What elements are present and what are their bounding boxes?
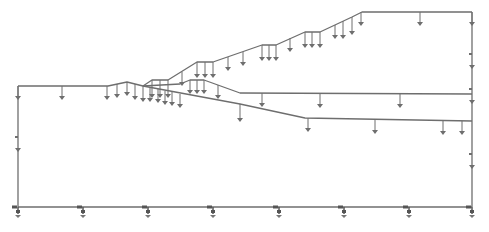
surface-load-arrow xyxy=(194,62,200,78)
arrow-down-icon xyxy=(147,98,153,102)
arrow-down-icon xyxy=(104,96,110,100)
surface-load-arrow xyxy=(417,12,423,26)
arrow-down-icon xyxy=(132,96,138,100)
arrow-down-icon xyxy=(397,104,403,108)
slope-model-diagram xyxy=(0,0,489,232)
surface-load-arrow xyxy=(340,21,346,39)
interface-load-arrow xyxy=(317,94,323,108)
arrow-down-icon xyxy=(225,67,231,71)
arrow-down-icon xyxy=(317,104,323,108)
boundary-markers xyxy=(15,53,475,169)
arrow-down-icon xyxy=(201,90,207,94)
arrow-down-icon xyxy=(340,35,346,39)
arrow-down-icon xyxy=(194,74,200,78)
interface-load-arrow xyxy=(201,80,207,94)
arrow-down-icon xyxy=(302,44,308,48)
arrow-down-icon xyxy=(114,94,120,98)
interface-load-arrow xyxy=(194,80,200,94)
surface-load-arrow xyxy=(317,32,323,48)
surface-load-arrow xyxy=(124,82,130,96)
arrow-down-icon xyxy=(317,44,323,48)
interface-load-arrow xyxy=(237,104,243,122)
ground-surface xyxy=(18,12,472,86)
layer-boundary-1 xyxy=(143,80,472,94)
arrow-down-icon xyxy=(215,95,221,99)
surface-load-arrow xyxy=(332,25,338,39)
surface-load-arrow xyxy=(225,57,231,71)
arrow-down-icon xyxy=(177,104,183,108)
layer-boundary-2 xyxy=(143,86,472,121)
arrow-down-icon xyxy=(459,131,465,135)
arrow-down-icon xyxy=(124,92,130,96)
arrow-down-icon xyxy=(15,96,21,100)
arrow-down-icon xyxy=(309,44,315,48)
arrow-down-icon xyxy=(259,103,265,107)
interface-load-arrow xyxy=(187,80,193,94)
arrow-down-icon xyxy=(140,98,146,102)
fixed-support-icon xyxy=(466,206,475,219)
arrow-down-icon xyxy=(440,131,446,135)
arrow-down-icon xyxy=(305,128,311,132)
surface-load-arrow xyxy=(15,86,21,100)
surface-load-arrow xyxy=(349,17,355,35)
interface-load-arrow xyxy=(177,94,183,108)
surface-load-arrow xyxy=(104,86,110,100)
surface-load-arrow xyxy=(140,86,146,102)
surface-load-arrow xyxy=(259,45,265,61)
arrow-down-icon xyxy=(240,62,246,66)
arrow-down-icon xyxy=(273,57,279,61)
interface-load-arrow xyxy=(215,85,221,99)
surface-load-arrow xyxy=(469,12,475,26)
arrow-down-icon xyxy=(59,96,65,100)
arrow-down-icon xyxy=(266,57,272,61)
boundary-lines xyxy=(18,12,472,207)
interface-load-arrow xyxy=(259,93,265,107)
surface-load-arrow xyxy=(114,84,120,98)
surface-load-arrow xyxy=(132,84,138,100)
interface-load-arrow xyxy=(459,121,465,135)
arrow-down-icon xyxy=(349,31,355,35)
interface-load-arrow xyxy=(162,91,168,105)
arrow-down-icon xyxy=(162,101,168,105)
surface-load-arrow xyxy=(210,62,216,78)
surface-load-arrow xyxy=(266,45,272,61)
surface-load-arrow xyxy=(240,52,246,66)
arrow-down-icon xyxy=(202,74,208,78)
interface-load-arrow xyxy=(305,118,311,132)
arrow-down-icon xyxy=(287,48,293,52)
arrow-down-icon xyxy=(194,90,200,94)
arrow-down-icon xyxy=(358,22,364,26)
surface-load-arrow xyxy=(309,32,315,48)
surface-load-arrow xyxy=(302,32,308,48)
load-arrows xyxy=(15,12,475,135)
surface-load-arrow xyxy=(202,62,208,78)
arrow-down-icon xyxy=(155,99,161,103)
surface-load-arrow xyxy=(165,80,171,98)
arrow-down-icon xyxy=(237,118,243,122)
interface-load-arrow xyxy=(372,120,378,134)
arrow-down-icon xyxy=(187,90,193,94)
surface-load-arrow xyxy=(273,45,279,61)
arrow-down-icon xyxy=(169,102,175,106)
arrow-down-icon xyxy=(259,57,265,61)
arrow-down-icon xyxy=(165,94,171,98)
surface-load-arrow xyxy=(59,86,65,100)
arrow-down-icon xyxy=(332,35,338,39)
interface-load-arrow xyxy=(397,94,403,108)
arrow-down-icon xyxy=(372,130,378,134)
diagram-svg xyxy=(0,0,489,232)
arrow-down-icon xyxy=(417,22,423,26)
arrow-down-icon xyxy=(469,22,475,26)
arrow-down-icon xyxy=(210,74,216,78)
interface-load-arrow xyxy=(440,121,446,135)
